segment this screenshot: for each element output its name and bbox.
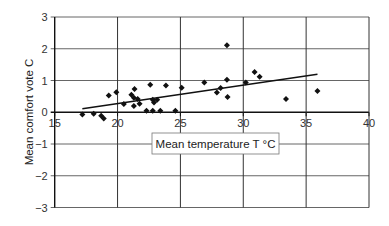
data-point: [283, 96, 289, 102]
data-point: [131, 103, 137, 109]
y-axis-title: Mean comfort vote C: [23, 59, 35, 166]
x-tick-label: 15: [49, 117, 61, 129]
data-point: [224, 42, 230, 48]
data-points: [79, 42, 320, 121]
data-point: [132, 86, 138, 92]
data-point: [179, 85, 185, 91]
data-point: [225, 94, 231, 100]
y-tick-label: 0: [42, 106, 48, 118]
x-tick-label: 20: [111, 117, 123, 129]
y-tick-label: 2: [42, 43, 48, 55]
x-axis-title-group: Mean temperature T °C: [152, 133, 279, 154]
data-point: [314, 88, 320, 94]
y-tick-label: −1: [35, 138, 48, 150]
data-point: [147, 82, 153, 88]
data-point: [218, 85, 224, 91]
x-tick-label: 40: [363, 117, 375, 129]
data-point: [214, 90, 220, 96]
data-point: [106, 92, 112, 98]
data-point: [163, 83, 169, 89]
grid: [51, 17, 369, 208]
x-tick-label: 25: [174, 117, 186, 129]
y-tick-label: 1: [42, 75, 48, 87]
data-point: [252, 69, 258, 75]
data-point: [224, 77, 230, 83]
y-tick-label: −2: [35, 170, 48, 182]
x-axis-title: Mean temperature T °C: [156, 138, 276, 150]
x-tick-label: 35: [300, 117, 312, 129]
data-point: [257, 74, 263, 80]
y-tick-label: 3: [42, 11, 48, 23]
x-tick-label: 30: [237, 117, 249, 129]
data-point: [113, 89, 119, 95]
scatter-chart: −3−2−10123152025303540 Mean temperature …: [0, 0, 389, 226]
y-tick-label: −3: [35, 202, 48, 214]
